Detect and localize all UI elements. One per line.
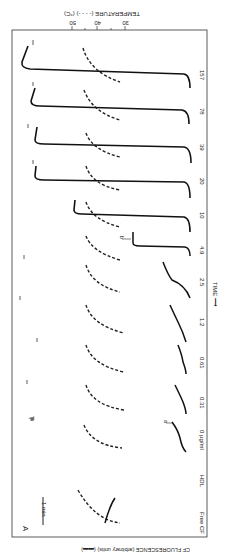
trace-031-temp	[86, 385, 124, 410]
trace-061-fluor	[178, 345, 186, 374]
y2-axis-label: TEMPERATURE (- - - -) (°C)	[64, 11, 140, 17]
category-label-78: 78	[199, 108, 205, 115]
category-label-061: 0.61	[199, 357, 205, 369]
category-label-39: 39	[199, 144, 205, 151]
trace-25-fluor	[163, 262, 190, 298]
trace-free-cf-temp	[78, 490, 120, 523]
trace-10-fluor	[74, 200, 190, 232]
event-markers	[20, 40, 37, 421]
category-label-20: 20	[199, 178, 205, 185]
trace-157-temp	[83, 48, 120, 82]
trace-0-fluor	[172, 422, 186, 452]
trace-031-fluor	[175, 385, 186, 414]
tick-40: 40	[94, 20, 101, 26]
trace-157-fluor	[22, 46, 190, 88]
scale-bar-label: 1 min	[41, 502, 47, 517]
panel-label: A	[21, 526, 30, 531]
tick-30: 30	[122, 20, 129, 26]
trace-12-temp	[86, 305, 124, 333]
trace-061-temp	[86, 345, 124, 372]
trace-25-temp	[86, 265, 120, 292]
trace-free-cf-fluor	[105, 498, 115, 523]
trace-12-fluor	[170, 305, 186, 342]
chart-figure	[0, 0, 227, 557]
temperature-axis	[72, 26, 125, 30]
category-label-157: 157	[199, 70, 205, 80]
b-marker-label: b	[119, 236, 125, 239]
category-label-hdl: HDL	[199, 475, 205, 487]
trace-39-fluor	[35, 127, 191, 163]
category-label-031: 0.31	[199, 397, 205, 409]
category-label-25: 2.5	[199, 278, 205, 286]
category-label-12: 1.2	[199, 318, 205, 326]
trace-78-fluor	[31, 88, 189, 124]
trace-20-temp	[86, 166, 120, 190]
y-axis-label: CF FLUORESCENCE (arbitrary units) (▬▬)	[81, 547, 190, 553]
trace-20-fluor	[35, 166, 190, 198]
trace-49-temp	[86, 236, 120, 260]
tick-50: 50	[69, 20, 76, 26]
category-label-49: 4.9	[199, 246, 205, 254]
category-label-free-cf: Free CF	[199, 512, 205, 534]
trace-49-fluor	[133, 232, 190, 256]
trace-hdl-temp	[84, 425, 122, 448]
category-label-10: 10	[199, 212, 205, 219]
t-marker-label: T	[28, 416, 35, 420]
trace-78-temp	[84, 90, 120, 120]
category-label-0: 0 µg/ml	[199, 430, 205, 450]
a-marker-label: a	[163, 420, 169, 423]
x-axis-label: TIME ⟶	[212, 282, 219, 307]
